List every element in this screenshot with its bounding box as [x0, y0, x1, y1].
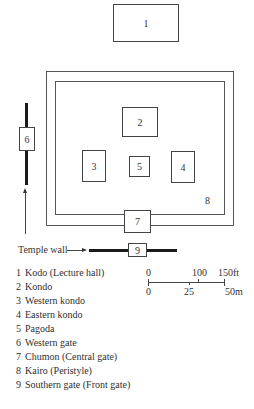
building-eastern-kondo: 4 — [171, 151, 195, 183]
legend: 1Kodo (Lecture hall) 2Kondo 3Western kon… — [16, 266, 130, 392]
building-kondo: 2 — [122, 107, 158, 137]
building-pagoda: 5 — [129, 156, 150, 177]
legend-item: 3Western kondo — [16, 294, 130, 308]
building-label: 6 — [25, 134, 30, 145]
building-kodo: 1 — [113, 4, 179, 42]
legend-item: 1Kodo (Lecture hall) — [16, 266, 130, 280]
legend-item: 7Chumon (Central gate) — [16, 350, 130, 364]
building-label: 5 — [137, 161, 142, 172]
temple-wall-label: Temple wall — [18, 244, 68, 255]
legend-item: 4Eastern kondo — [16, 308, 130, 322]
legend-item: 5Pagoda — [16, 322, 130, 336]
scale-m-50: 50m — [225, 286, 243, 297]
building-label: 4 — [181, 162, 186, 173]
legend-item: 9Southern gate (Front gate) — [16, 378, 130, 392]
kairo-inner-wall — [55, 81, 225, 215]
scale-m-0: 0 — [146, 286, 151, 297]
temple-wall-label-arrow — [67, 250, 83, 251]
legend-item: 2Kondo — [16, 280, 130, 294]
scale-bar-line — [148, 282, 225, 283]
building-western-gate: 6 — [19, 127, 35, 151]
building-chumon: 7 — [124, 210, 151, 233]
building-western-kondo: 3 — [82, 150, 106, 182]
scale-ft-150: 150ft — [218, 267, 239, 278]
legend-item: 6Western gate — [16, 336, 130, 350]
building-label: 1 — [144, 18, 149, 29]
building-label: 2 — [138, 117, 143, 128]
scale-ft-100: 100 — [192, 267, 207, 278]
scale-ft-0: 0 — [146, 267, 151, 278]
legend-item: 8Kairo (Peristyle) — [16, 364, 130, 378]
arrow-right-icon — [82, 248, 87, 252]
arrow-up-icon — [23, 188, 27, 193]
scale-m-25: 25 — [184, 286, 194, 297]
scale-tick — [224, 279, 225, 286]
building-southern-gate: 9 — [128, 243, 147, 257]
temple-wall-arrow-line — [25, 192, 26, 234]
scale-tick — [198, 279, 199, 282]
kairo-label: 8 — [205, 195, 210, 206]
scale-tick — [189, 282, 190, 285]
building-label: 9 — [135, 245, 140, 256]
scale-tick — [148, 279, 149, 286]
building-label: 3 — [92, 161, 97, 172]
building-label: 7 — [135, 216, 140, 227]
